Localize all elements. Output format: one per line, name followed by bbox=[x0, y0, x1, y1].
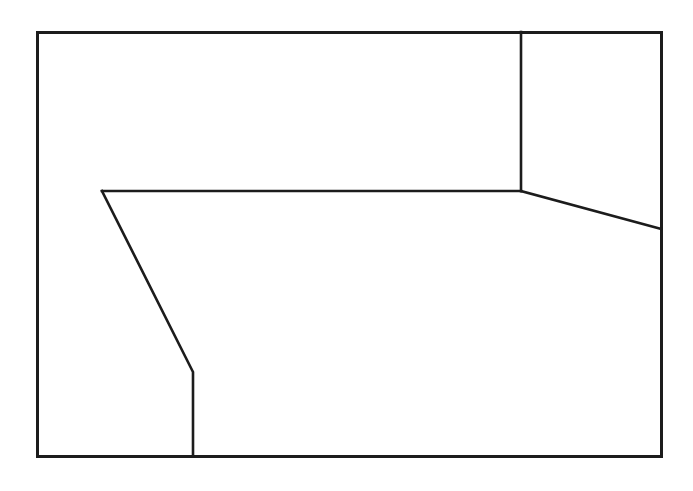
outer-border-rect bbox=[37, 32, 661, 456]
figure-svg-canvas bbox=[0, 0, 693, 491]
scanned-page: 図二四 庭園の平面図 庭の境界線と区画の配置 bbox=[0, 0, 693, 491]
line-drawing-figure bbox=[0, 0, 693, 491]
